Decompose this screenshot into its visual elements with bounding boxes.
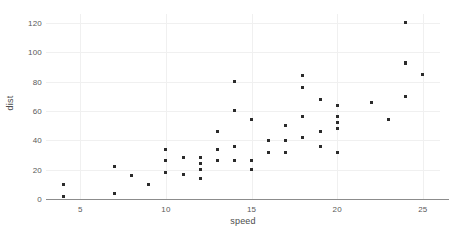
y-tick-label: 120 (6, 18, 42, 27)
gridline-horizontal (46, 111, 440, 112)
x-axis-title: speed (46, 216, 440, 226)
gridline-horizontal (46, 140, 440, 141)
data-point (370, 101, 373, 104)
data-point (284, 139, 287, 142)
data-point (404, 95, 407, 98)
data-point (421, 73, 424, 76)
x-tick-label: 5 (60, 205, 100, 214)
data-point (250, 159, 253, 162)
data-point (199, 156, 202, 159)
data-point (164, 148, 167, 151)
x-tick-label: 10 (146, 205, 186, 214)
data-point (250, 118, 253, 121)
data-point (199, 177, 202, 180)
data-point (319, 130, 322, 133)
data-point (319, 98, 322, 101)
y-tick-label: 100 (6, 48, 42, 57)
gridline-vertical (80, 14, 81, 199)
data-point (113, 165, 116, 168)
gridline-horizontal (46, 82, 440, 83)
data-point (404, 21, 407, 24)
x-tick-label: 15 (232, 205, 272, 214)
data-point (113, 192, 116, 195)
y-tick-label: 40 (6, 136, 42, 145)
data-point (319, 145, 322, 148)
data-point (284, 151, 287, 154)
data-point (233, 159, 236, 162)
y-axis-title: dist (5, 83, 15, 123)
data-point (233, 109, 236, 112)
data-point (182, 173, 185, 176)
x-tick-label: 20 (317, 205, 357, 214)
data-point (267, 151, 270, 154)
data-point (164, 159, 167, 162)
data-point (250, 168, 253, 171)
plot-area (46, 14, 440, 199)
data-point (301, 115, 304, 118)
data-point (216, 130, 219, 133)
data-point (336, 151, 339, 154)
gridline-horizontal (46, 52, 440, 53)
data-point (404, 61, 407, 64)
data-point (267, 139, 270, 142)
data-point (182, 156, 185, 159)
y-tick-label: 0 (6, 195, 42, 204)
data-point (62, 195, 65, 198)
data-point (301, 86, 304, 89)
data-point (130, 174, 133, 177)
gridline-vertical (423, 14, 424, 199)
data-point (336, 121, 339, 124)
data-point (164, 171, 167, 174)
data-point (199, 162, 202, 165)
data-point (199, 168, 202, 171)
x-tick-label: 25 (403, 205, 443, 214)
y-tick-label: 20 (6, 165, 42, 174)
data-point (62, 183, 65, 186)
gridline-horizontal (46, 23, 440, 24)
data-point (301, 136, 304, 139)
gridline-horizontal (46, 170, 440, 171)
data-point (147, 183, 150, 186)
data-point (336, 115, 339, 118)
data-point (284, 124, 287, 127)
data-point (336, 127, 339, 130)
data-point (233, 80, 236, 83)
data-point (301, 74, 304, 77)
data-point (233, 145, 236, 148)
data-point (216, 159, 219, 162)
scatter-chart: 020406080100120 510152025 speed dist (0, 0, 461, 245)
data-point (336, 104, 339, 107)
gridline-vertical (252, 14, 253, 199)
data-point (216, 148, 219, 151)
data-point (387, 118, 390, 121)
